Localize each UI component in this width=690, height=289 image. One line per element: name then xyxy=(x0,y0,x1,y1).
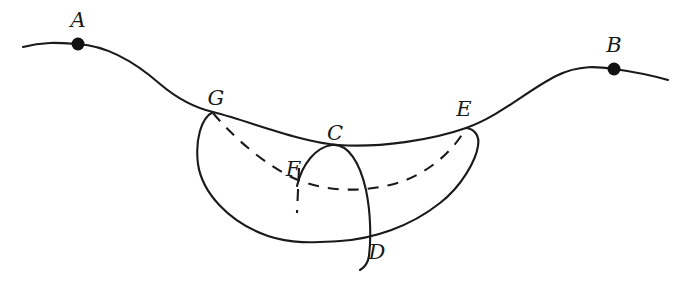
label-b: B xyxy=(605,33,621,57)
label-f: F xyxy=(285,157,302,181)
point-dot-a xyxy=(72,38,85,51)
cd-arc-path xyxy=(297,145,370,270)
crescent-left-edge-path xyxy=(197,112,340,242)
label-c: C xyxy=(327,121,343,145)
geometry-figure: A B G C E F D xyxy=(0,0,690,289)
point-dot-b xyxy=(608,63,621,76)
main-curve-path xyxy=(23,43,668,146)
label-d: D xyxy=(368,240,386,264)
label-g: G xyxy=(208,86,225,110)
diagram-canvas: A B G C E F D xyxy=(0,0,690,289)
label-a: A xyxy=(68,8,85,32)
label-e: E xyxy=(455,97,471,121)
